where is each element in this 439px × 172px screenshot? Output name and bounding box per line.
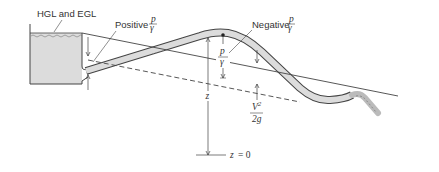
v-label: V2: [252, 100, 262, 112]
positive-pressure-indicator: [86, 37, 90, 90]
velocity-head-indicator: V2 2g: [250, 84, 263, 124]
reservoir-fluid: [30, 33, 82, 84]
hgl-egl-label: HGL and EGL: [37, 8, 96, 19]
dashed-reference-line: [88, 60, 300, 102]
negative-label: Negative: [252, 19, 290, 30]
positive-label: Positive: [115, 19, 148, 30]
crest-point: [221, 33, 225, 37]
crest-p-label: p: [219, 46, 225, 56]
datum-label: z = 0: [229, 150, 251, 160]
crest-pressure-indicator: p γ: [216, 33, 230, 78]
hgl-egl-leader: [54, 20, 62, 32]
siphon-diagram: z z = 0 p γ V2 2g HGL and EGL Positive p…: [0, 0, 439, 172]
positive-gamma-label: γ: [150, 23, 154, 33]
reservoir: [30, 24, 88, 84]
crest-gamma-label: γ: [220, 57, 224, 67]
siphon-pipe: [86, 32, 378, 113]
hgl-egl-line: [82, 33, 398, 96]
two-g-label: 2g: [252, 114, 262, 124]
reservoir-inner-wall: [82, 33, 87, 70]
negative-gamma-label: γ: [288, 23, 292, 33]
z-label: z: [205, 91, 210, 101]
